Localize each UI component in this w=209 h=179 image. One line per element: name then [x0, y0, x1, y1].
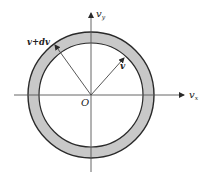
inner-vector-label: v	[120, 61, 126, 71]
outer-velocity-vector	[55, 45, 91, 95]
vx-axis-label: vx	[189, 89, 199, 101]
vy-axis-label: vy	[96, 8, 106, 21]
origin-label: O	[81, 97, 89, 108]
velocity-shell-diagram: vy vx O v v+dv	[0, 0, 209, 179]
outer-vector-label: v+dv	[27, 37, 51, 47]
